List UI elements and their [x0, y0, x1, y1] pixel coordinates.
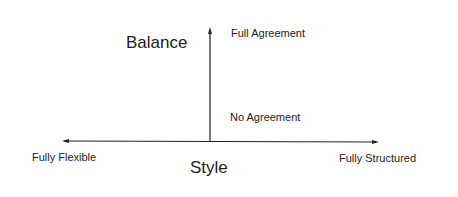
no-agreement-label: No Agreement: [230, 111, 300, 123]
vertical-axis-title: Balance: [126, 33, 187, 53]
horizontal-axis: [64, 141, 376, 142]
horizontal-axis-title: Style: [190, 158, 228, 178]
right-arrowhead-icon: [372, 140, 379, 144]
axes: [0, 0, 458, 197]
fully-structured-label: Fully Structured: [339, 152, 416, 164]
left-arrowhead-icon: [62, 139, 69, 143]
up-arrowhead-icon: [208, 27, 212, 34]
fully-flexible-label: Fully Flexible: [32, 151, 96, 163]
full-agreement-label: Full Agreement: [231, 27, 305, 39]
